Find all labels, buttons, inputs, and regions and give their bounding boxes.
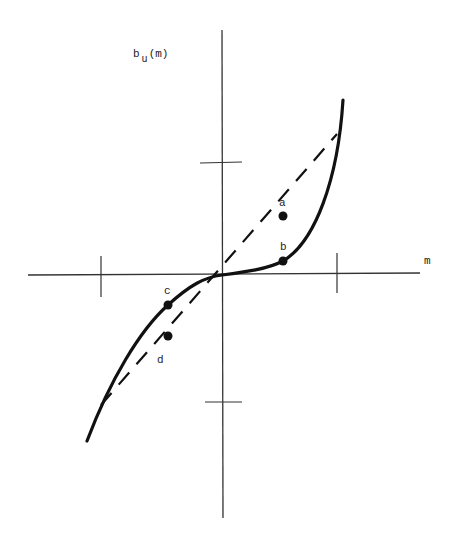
point-b	[279, 257, 288, 266]
point-a	[279, 212, 288, 221]
y-axis-label-subscript: u	[142, 54, 148, 65]
dashed-linear-line	[101, 134, 337, 405]
point-d	[164, 332, 173, 341]
solid-nonlinear-curve	[87, 100, 343, 441]
label-c: c	[164, 285, 171, 297]
label-a: a	[279, 197, 286, 209]
y-axis-label-main: b	[133, 48, 140, 60]
x-axis-label: m	[424, 255, 431, 267]
diagram-figure: a b c d m bu(m)	[0, 0, 456, 550]
y-axis-label: bu(m)	[133, 48, 168, 65]
point-c	[164, 301, 173, 310]
y-tick-positive	[200, 162, 242, 163]
y-axis-label-tail: (m)	[149, 48, 169, 60]
label-d: d	[157, 354, 164, 366]
label-b: b	[280, 241, 287, 253]
